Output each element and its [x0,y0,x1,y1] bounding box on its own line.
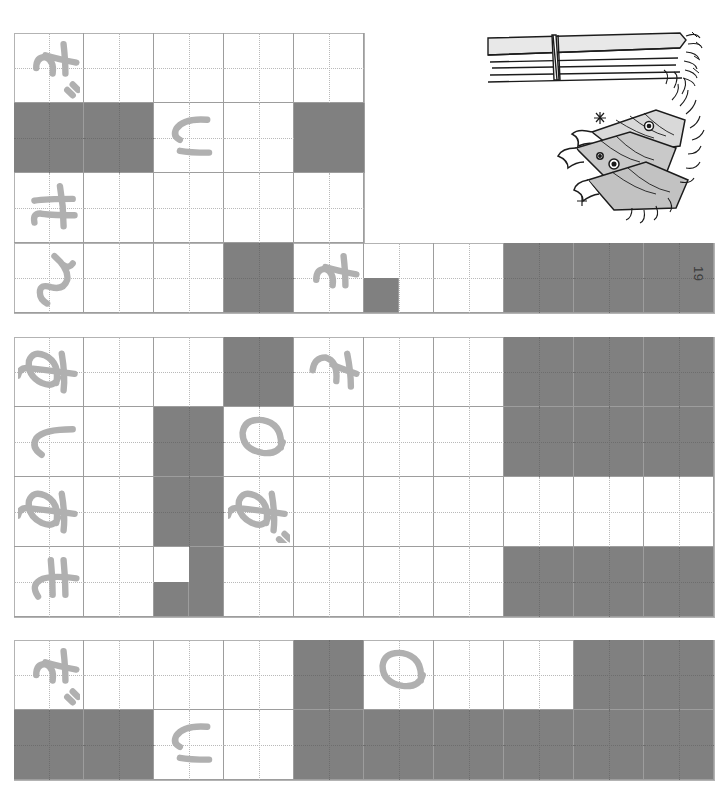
grid-cell[interactable] [364,640,434,710]
grid-cell[interactable] [14,243,84,313]
grid-cell[interactable] [294,640,364,710]
grid-cell[interactable] [364,337,434,407]
grid-cell[interactable] [294,243,364,313]
grid-cell[interactable] [364,547,434,617]
grid-cell[interactable] [504,337,574,407]
grid-cell[interactable] [574,407,644,477]
grid-cell[interactable] [14,477,84,547]
grid-cell[interactable] [224,337,294,407]
grid-cell[interactable] [14,337,84,407]
grid-cell[interactable] [364,477,434,547]
grid-cell[interactable] [294,33,364,103]
grid-cell[interactable] [14,33,84,103]
grid-cell[interactable] [84,710,154,780]
grid-cell[interactable] [154,710,224,780]
grid-cell[interactable] [154,337,224,407]
grid-cell[interactable] [434,477,504,547]
grid-cell[interactable] [14,103,84,173]
grid-cell[interactable] [14,710,84,780]
grid-cell[interactable] [224,33,294,103]
grilled-saury-fish-illustration [480,28,705,238]
grid-cell[interactable] [574,477,644,547]
grid-cell[interactable] [14,547,84,617]
grid-cell[interactable] [14,173,84,243]
grid-cell[interactable] [84,243,154,313]
grid-cell[interactable] [84,640,154,710]
grid-cell[interactable] [154,243,224,313]
grid-cell[interactable] [644,547,714,617]
grid-cell[interactable] [364,710,434,780]
grid-cell[interactable] [224,547,294,617]
grid-cell[interactable] [84,173,154,243]
grid-cell[interactable] [154,477,224,547]
grid-cell[interactable] [434,243,504,313]
grid-cell[interactable] [644,640,714,710]
grid-cell[interactable] [644,337,714,407]
grid-cell[interactable] [434,640,504,710]
grid-cell[interactable] [84,547,154,617]
grid-cell[interactable] [434,547,504,617]
page-number: 19 [691,266,706,281]
grid-cell[interactable] [574,243,644,313]
grid-cell[interactable] [504,407,574,477]
worksheet-page: 19 [0,0,720,796]
practice-grid-block-1 [14,33,365,244]
grid-cell[interactable] [364,407,434,477]
grid-cell[interactable] [84,407,154,477]
grid-cell[interactable] [14,640,84,710]
grid-cell[interactable] [224,407,294,477]
grid-cell[interactable] [574,640,644,710]
grid-cell[interactable] [574,337,644,407]
grid-cell[interactable] [434,407,504,477]
grid-cell[interactable] [224,243,294,313]
grid-cell[interactable] [574,547,644,617]
grid-cell-partial[interactable] [154,582,189,617]
grid-cell[interactable] [154,33,224,103]
grid-cell[interactable] [504,243,574,313]
practice-grid-block-2 [14,337,715,618]
grid-cell[interactable] [294,547,364,617]
grid-cell[interactable] [504,640,574,710]
grid-cell[interactable] [574,710,644,780]
grid-cell[interactable] [224,710,294,780]
grid-cell[interactable] [294,710,364,780]
grid-cell[interactable] [154,103,224,173]
grid-cell[interactable] [224,477,294,547]
grid-cell[interactable] [644,407,714,477]
practice-grid-block-1-wide-row [14,243,715,314]
practice-grid-block-3 [14,640,715,781]
grid-cell[interactable] [84,33,154,103]
grid-cell[interactable] [434,710,504,780]
grid-cell[interactable] [644,710,714,780]
grid-cell[interactable] [224,640,294,710]
grid-cell[interactable] [154,640,224,710]
grid-cell[interactable] [434,337,504,407]
grid-cell[interactable] [294,173,364,243]
grid-cell[interactable] [504,477,574,547]
grid-cell[interactable] [504,547,574,617]
grid-cell[interactable] [224,173,294,243]
grid-cell[interactable] [224,103,294,173]
grid-cell-partial[interactable] [189,547,224,617]
grid-cell[interactable] [84,103,154,173]
grid-cell-partial[interactable] [294,103,365,173]
grid-cell[interactable] [294,407,364,477]
grid-cell-partial[interactable] [364,278,399,313]
grid-cell[interactable] [644,477,714,547]
grid-cell[interactable] [84,477,154,547]
grid-cell[interactable] [84,337,154,407]
grid-cell[interactable] [154,407,224,477]
grid-cell[interactable] [294,477,364,547]
grid-cell[interactable] [504,710,574,780]
grid-cell[interactable] [294,337,364,407]
grid-cell[interactable] [154,173,224,243]
grid-cell[interactable] [14,407,84,477]
